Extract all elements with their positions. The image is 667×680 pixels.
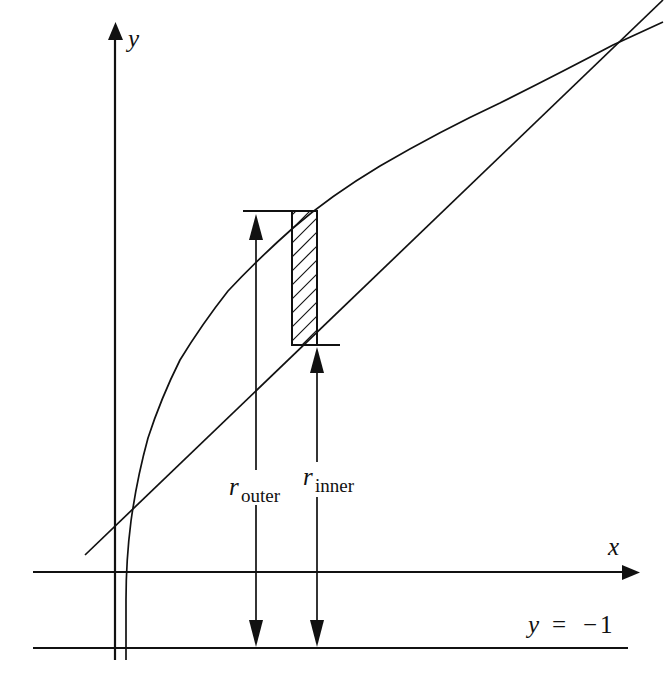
r-inner-subscript: inner [315, 475, 355, 496]
r-inner-arrowhead-down-icon [310, 620, 324, 647]
reference-line-label: y = − 1 [525, 611, 613, 638]
y-axis-arrowhead-icon [108, 22, 123, 40]
r-inner-label: r inner [303, 463, 355, 496]
inner-line [85, 0, 663, 555]
figure-canvas: y x r outer r inner y = − 1 [0, 0, 667, 680]
diagram-svg: y x r outer r inner y = − 1 [0, 0, 667, 680]
reference-label-value: 1 [600, 611, 613, 638]
r-outer-arrow [249, 214, 263, 647]
outer-curve [126, 22, 663, 660]
r-outer-symbol: r [229, 473, 239, 500]
x-axis-arrowhead-icon [622, 565, 640, 580]
r-inner-arrowhead-up-icon [310, 347, 324, 373]
reference-label-y: y [525, 611, 540, 638]
y-axis-label: y [125, 25, 140, 52]
reference-label-minus: − [583, 611, 597, 638]
r-outer-label: r outer [229, 473, 281, 506]
r-outer-subscript: outer [241, 485, 281, 506]
r-inner-symbol: r [303, 463, 313, 490]
r-inner-arrow [310, 347, 324, 647]
x-axis-label: x [607, 533, 619, 560]
r-outer-arrowhead-up-icon [249, 214, 263, 240]
reference-label-equals: = [552, 611, 566, 638]
r-outer-arrowhead-down-icon [249, 620, 263, 647]
